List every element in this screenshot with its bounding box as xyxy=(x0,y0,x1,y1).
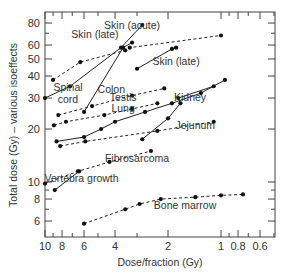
data-point xyxy=(99,127,103,131)
y-tick-label: 80 xyxy=(28,17,40,29)
x-axis-label: Dose/fraction (Gy) xyxy=(117,256,202,268)
x-tick-label: 0.8 xyxy=(230,240,245,252)
data-point xyxy=(113,120,117,124)
y-axis-label: Total dose (Gy) – various isoeffects xyxy=(7,43,19,207)
data-point xyxy=(135,67,139,71)
data-point xyxy=(102,113,106,117)
series-label: Jejunum xyxy=(175,119,215,131)
series-label: Bone marrow xyxy=(154,199,217,211)
data-point xyxy=(53,188,57,192)
data-point xyxy=(83,139,87,143)
data-point xyxy=(78,60,82,64)
x-tick-label: 0.6 xyxy=(252,240,267,252)
data-point xyxy=(174,46,178,50)
series-label: Skin (late) xyxy=(71,28,118,40)
x-tick-label: 1 xyxy=(218,240,224,252)
data-point xyxy=(170,47,174,51)
data-point xyxy=(138,202,142,206)
series-label: Fibrosarcoma xyxy=(105,152,169,164)
data-point xyxy=(82,222,86,226)
series-testis xyxy=(52,101,160,127)
y-tick-label: 20 xyxy=(28,123,40,135)
y-tick-label: 8 xyxy=(34,193,40,205)
data-point xyxy=(143,110,147,114)
x-tick-label: 4 xyxy=(112,240,118,252)
data-point xyxy=(52,123,56,127)
series-label: cord xyxy=(58,93,79,105)
series-label: Skin (late) xyxy=(152,55,199,67)
y-tick-label: 30 xyxy=(28,92,40,104)
data-point xyxy=(140,137,144,141)
data-point xyxy=(166,116,170,120)
series-label: Kidney xyxy=(174,91,207,103)
data-point xyxy=(155,101,159,105)
data-point xyxy=(223,78,227,82)
x-tick-label: 8 xyxy=(59,240,65,252)
series-label: Lung xyxy=(111,102,135,114)
x-tick-label: 6 xyxy=(81,240,87,252)
y-tick-label: 50 xyxy=(28,53,40,65)
series-label: Testis xyxy=(110,91,137,103)
data-point xyxy=(54,139,58,143)
data-point xyxy=(82,110,86,114)
x-tick-label: 10 xyxy=(39,240,51,252)
data-point xyxy=(58,144,62,148)
data-point xyxy=(212,84,216,88)
data-point xyxy=(121,46,125,50)
data-point xyxy=(219,193,223,197)
data-point xyxy=(162,86,166,90)
data-point xyxy=(90,104,94,108)
data-point xyxy=(130,40,134,44)
y-tick-label: 10 xyxy=(28,176,40,188)
data-point xyxy=(123,207,127,211)
x-tick-label: 2 xyxy=(165,240,171,252)
data-point xyxy=(155,129,159,133)
data-point xyxy=(241,192,245,196)
data-point xyxy=(219,33,223,37)
data-point xyxy=(56,113,60,117)
y-tick-label: 60 xyxy=(28,39,40,51)
series-label: Vertebra growth xyxy=(44,172,118,184)
data-point xyxy=(128,46,132,50)
chart: 10864210.80.6 6810203040506080 Skin (acu… xyxy=(0,0,287,279)
series-label: Spinal xyxy=(53,81,82,93)
data-point xyxy=(43,96,47,100)
data-point xyxy=(64,120,68,124)
y-tick-label: 6 xyxy=(34,215,40,227)
data-point xyxy=(82,135,86,139)
y-tick-label: 40 xyxy=(28,70,40,82)
